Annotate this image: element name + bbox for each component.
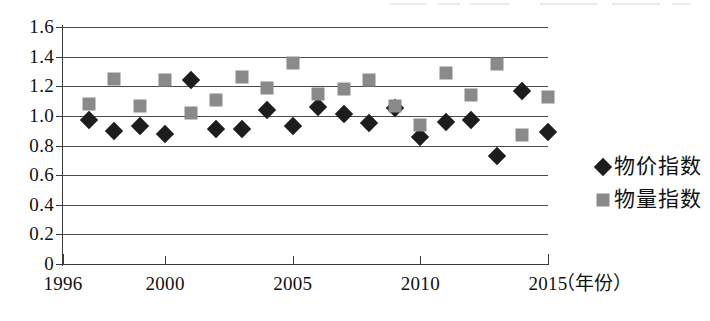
data-point-square — [490, 58, 503, 71]
data-point-square — [210, 93, 223, 106]
x-axis-tick-label: 1996 — [28, 274, 98, 293]
data-point-square — [261, 81, 274, 94]
y-axis-tick-label: 1.2 — [2, 76, 54, 95]
x-axis-unit-label: （年份） — [556, 274, 632, 293]
y-axis-tick-label: 0 — [2, 254, 54, 273]
diamond-marker-icon — [592, 157, 614, 177]
data-point-square — [184, 106, 197, 119]
data-point-square — [439, 66, 452, 79]
data-point-square — [133, 99, 146, 112]
data-point-square — [82, 98, 95, 111]
chart-legend: 物价指数 物量指数 — [592, 150, 710, 216]
y-axis-tick-label: 0.6 — [2, 165, 54, 184]
x-axis-tick-label: 2000 — [130, 274, 200, 293]
data-point-square — [108, 72, 121, 85]
x-axis-tick-label: 2005 — [258, 274, 328, 293]
legend-item-quantity-index: 物量指数 — [592, 183, 710, 216]
data-point-square — [159, 74, 172, 87]
data-point-square — [286, 56, 299, 69]
square-marker-icon — [592, 190, 614, 210]
y-axis-tick-label: 1.6 — [2, 17, 54, 36]
x-axis-tick — [548, 254, 549, 264]
data-point-square — [388, 99, 401, 112]
data-point-square — [363, 74, 376, 87]
x-axis-tick-label: 2010 — [385, 274, 455, 293]
y-axis-tick-label: 1.4 — [2, 47, 54, 66]
data-point-square — [337, 83, 350, 96]
plot-area — [63, 27, 548, 264]
legend-item-price-index: 物价指数 — [592, 150, 710, 183]
scan-artifact — [0, 0, 710, 10]
data-point-square — [465, 89, 478, 102]
scatter-chart: 00.20.40.60.81.01.21.41.6 19962000200520… — [0, 0, 710, 321]
y-axis-tick-label: 1.0 — [2, 106, 54, 125]
data-point-square — [516, 129, 529, 142]
data-point-square — [414, 118, 427, 131]
legend-label-price-index: 物价指数 — [614, 156, 702, 177]
legend-label-quantity-index: 物量指数 — [614, 189, 702, 210]
data-point-square — [235, 71, 248, 84]
y-axis-tick-label: 0.4 — [2, 195, 54, 214]
y-axis-tick-label: 0.2 — [2, 224, 54, 243]
y-axis-tick-label: 0.8 — [2, 136, 54, 155]
data-point-square — [312, 87, 325, 100]
data-point-square — [542, 90, 555, 103]
